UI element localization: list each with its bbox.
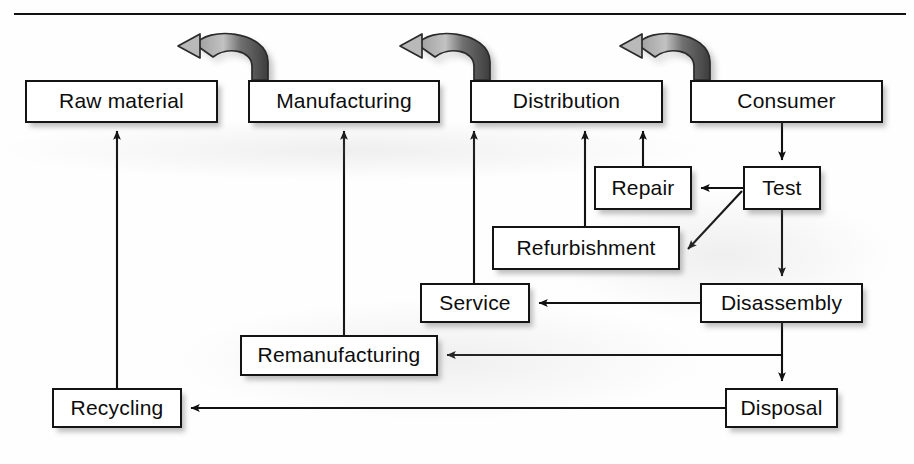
- node-repair[interactable]: Repair: [594, 166, 692, 210]
- node-label: Raw material: [59, 90, 184, 113]
- node-label: Consumer: [737, 90, 835, 113]
- curved-arrow-consumer-to-distribution: [620, 34, 714, 85]
- node-disassembly[interactable]: Disassembly: [700, 283, 863, 323]
- node-service[interactable]: Service: [420, 283, 530, 323]
- curved-arrow-distribution-to-manufacturing: [400, 34, 494, 85]
- node-label: Distribution: [513, 90, 620, 113]
- node-label: Disassembly: [721, 292, 842, 315]
- node-refurbishment[interactable]: Refurbishment: [492, 226, 680, 270]
- node-distribution[interactable]: Distribution: [470, 80, 663, 123]
- edge-test-to-refurbishment: [688, 191, 742, 249]
- node-label: Service: [439, 292, 510, 315]
- node-label: Repair: [611, 177, 674, 200]
- curved-arrow-manufacturing-to-raw-material: [178, 34, 272, 85]
- header-rule: [14, 13, 906, 15]
- node-manufacturing[interactable]: Manufacturing: [248, 80, 440, 123]
- node-label: Remanufacturing: [258, 344, 421, 367]
- diagram-canvas: Raw material Manufacturing Distribution …: [0, 0, 914, 464]
- node-recycling[interactable]: Recycling: [52, 388, 182, 428]
- node-raw-material[interactable]: Raw material: [25, 80, 218, 123]
- node-label: Test: [762, 177, 801, 200]
- node-label: Refurbishment: [516, 237, 655, 260]
- node-label: Recycling: [71, 397, 164, 420]
- edge-disassembly-to-remanufacturing: [447, 323, 782, 355]
- node-label: Manufacturing: [276, 90, 412, 113]
- node-disposal[interactable]: Disposal: [725, 388, 838, 428]
- node-consumer[interactable]: Consumer: [690, 80, 883, 123]
- node-test[interactable]: Test: [743, 166, 821, 210]
- node-label: Disposal: [740, 397, 822, 420]
- node-remanufacturing[interactable]: Remanufacturing: [240, 335, 438, 376]
